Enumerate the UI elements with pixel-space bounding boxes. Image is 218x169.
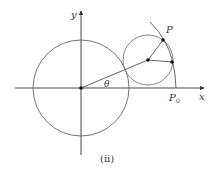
- point-p-label: P: [165, 24, 173, 35]
- center-line: [81, 60, 148, 88]
- y-axis-label: y: [70, 9, 77, 20]
- rolling-center-point: [146, 58, 150, 62]
- point-p: [161, 38, 165, 42]
- point-p0-subscript: 0: [176, 97, 180, 104]
- epicycloid-diagram: y x P P 0 θ (ii): [0, 0, 218, 169]
- angle-theta-label: θ: [104, 79, 110, 89]
- radius-to-tangent-point: [148, 60, 172, 62]
- point-p0-label: P: [168, 92, 176, 103]
- figure-caption: (ii): [100, 153, 114, 164]
- radius-to-p: [148, 40, 163, 60]
- x-axis-label: x: [199, 91, 205, 102]
- origin-point: [79, 86, 83, 90]
- arc-point: [170, 60, 174, 64]
